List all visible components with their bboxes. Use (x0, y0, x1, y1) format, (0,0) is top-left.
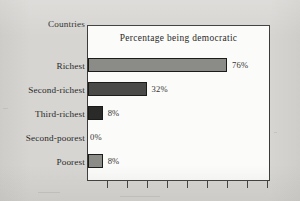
bar-value-poorest: 8% (108, 156, 120, 166)
x-axis-ticks (87, 181, 270, 191)
x-axis-tick (227, 181, 228, 188)
bar-value-third-richest: 8% (108, 108, 120, 118)
x-axis-tick (207, 181, 208, 188)
category-label-third-richest: Third-richest (0, 110, 85, 119)
bar-richest (88, 58, 227, 72)
category-label-second-richest: Second-richest (0, 86, 85, 95)
bar-value-second-richest: 32% (152, 84, 168, 94)
bar-value-second-poorest: 0% (90, 132, 102, 142)
bar-poorest (88, 154, 103, 168)
bar-third-richest (88, 106, 103, 120)
x-axis-tick (107, 181, 108, 188)
bars-area: 76% 32% 8% 0% 8% (88, 26, 269, 180)
scan-speckle (274, 132, 277, 133)
axis-title-countries: Countries (0, 20, 85, 29)
x-axis-tick (167, 181, 168, 188)
category-label-second-poorest: Second-poorest (0, 134, 85, 143)
bar-value-richest: 76% (232, 60, 248, 70)
bar-second-richest (88, 82, 147, 96)
scan-speckle (3, 108, 8, 109)
plot-frame: Percentage being democratic 76% 32% 8% 0… (87, 25, 270, 181)
x-axis-tick (247, 181, 248, 188)
scan-speckle (120, 196, 160, 197)
category-label-poorest: Poorest (0, 158, 85, 167)
x-axis-tick (187, 181, 188, 188)
chart-page: Countries Richest Second-richest Third-r… (0, 0, 300, 201)
x-axis-tick (147, 181, 148, 188)
scan-speckle (38, 192, 60, 193)
x-axis-tick (267, 181, 268, 188)
category-label-richest: Richest (0, 62, 85, 71)
x-axis-tick (127, 181, 128, 188)
